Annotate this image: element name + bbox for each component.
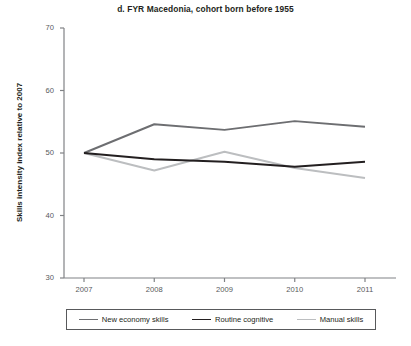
y-tick-label: 70 <box>32 24 54 32</box>
legend-label: Manual skills <box>320 315 363 324</box>
chart-legend: New economy skillsRoutine cognitiveManua… <box>66 309 376 330</box>
legend-swatch-icon <box>297 319 316 320</box>
x-tick-label: 2010 <box>275 286 315 294</box>
legend-swatch-icon <box>192 319 211 320</box>
chart-container: d. FYR Macedonia, cohort born before 195… <box>0 0 411 346</box>
legend-entry[interactable]: New economy skills <box>79 315 169 324</box>
x-tick-label: 2008 <box>134 286 174 294</box>
legend-entry[interactable]: Manual skills <box>297 315 363 324</box>
legend-entry[interactable]: Routine cognitive <box>192 315 273 324</box>
plot-area <box>0 0 411 346</box>
series-line <box>84 121 365 153</box>
x-tick-label: 2007 <box>64 286 104 294</box>
y-tick-label: 50 <box>32 149 54 157</box>
legend-swatch-icon <box>79 319 98 320</box>
legend-label: New economy skills <box>102 315 169 324</box>
x-tick-label: 2009 <box>205 286 245 294</box>
legend-label: Routine cognitive <box>215 315 273 324</box>
y-tick-label: 60 <box>32 87 54 95</box>
series-line <box>84 153 365 167</box>
data-series-lines <box>84 121 365 178</box>
x-tick-label: 2011 <box>345 286 385 294</box>
y-tick-label: 30 <box>32 274 54 282</box>
y-tick-label: 40 <box>32 212 54 220</box>
